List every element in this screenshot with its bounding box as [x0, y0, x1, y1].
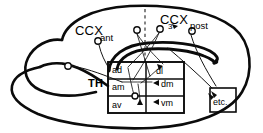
figure-root: CCX ant CCX post 3 TH ad dl am dm av vm … [0, 0, 263, 133]
grid-cell-label-vm: vm [161, 99, 173, 108]
grid-cell-label-av: av [112, 101, 122, 110]
arrowhead-to-dm [153, 80, 159, 86]
terminal-dot-left-outer[interactable] [65, 63, 71, 69]
grid-cell-label-am: am [112, 83, 125, 92]
label-ccx-anterior-sub: ant [100, 33, 113, 43]
brain-outline-path [12, 6, 250, 129]
arrowhead-up-av [137, 99, 143, 105]
label-etc-box: etc. [213, 98, 228, 107]
brain-outline-group [12, 6, 250, 129]
terminal-dot-mid-left[interactable] [134, 27, 140, 33]
label-ccx-posterior-main: CCX [160, 13, 188, 26]
arrowheads-group [137, 24, 217, 105]
label-thalamus: TH [88, 78, 103, 89]
terminal-dot-grid-inner[interactable] [132, 93, 138, 99]
brain-schematic-drawing [0, 0, 263, 133]
grid-cell-label-ad: ad [112, 66, 122, 75]
connection-grid-descend-b [138, 84, 140, 102]
connection-grid-descend-a [128, 68, 134, 95]
grid-cell-label-dl: dl [156, 67, 163, 76]
arrowhead-to-vm [153, 99, 159, 105]
grid-cell-label-dm: dm [161, 80, 174, 89]
cortical-arc-inner-path [117, 49, 214, 69]
label-marker-number: 3 [168, 23, 172, 31]
label-ccx-posterior-sub: post [190, 21, 208, 31]
label-ccx-anterior-main: CCX [75, 24, 103, 37]
